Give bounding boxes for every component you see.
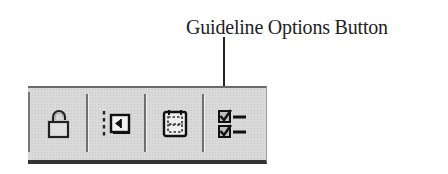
callout-label: Guideline Options Button (186, 16, 388, 39)
guideline-options-button[interactable] (206, 94, 260, 154)
toolbar-separator (202, 94, 204, 152)
toolbar-separator (144, 94, 146, 152)
toolbar-left-edge (28, 92, 30, 152)
grid-frame-button[interactable] (148, 94, 202, 154)
margin-guide-button[interactable] (90, 94, 144, 154)
lock-button[interactable] (32, 94, 86, 154)
toolbar (28, 86, 267, 164)
grid-frame-icon (160, 108, 190, 140)
padlock-icon (46, 108, 72, 140)
toolbar-separator (86, 94, 88, 152)
checklist-icon (216, 107, 250, 141)
margin-guide-icon (100, 107, 134, 141)
